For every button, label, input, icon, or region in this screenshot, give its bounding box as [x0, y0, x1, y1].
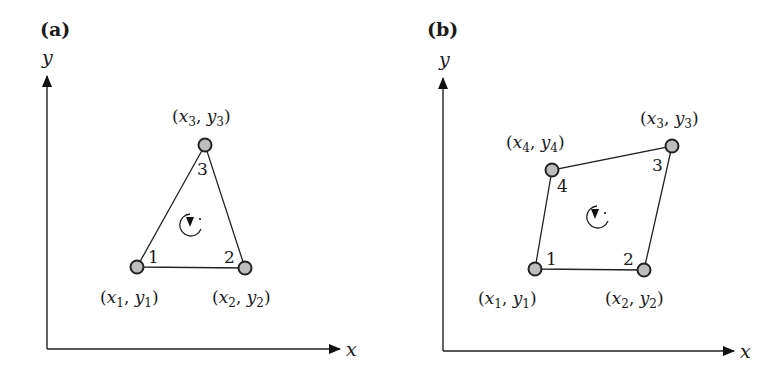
node-1-number: 1 [546, 249, 557, 269]
node-3 [666, 140, 679, 153]
node-3-number: 3 [652, 155, 663, 175]
node-4 [546, 164, 559, 177]
node-1-coord-label: (x1, y1) [478, 288, 537, 311]
node-2-coord-label: (x2, y2) [212, 287, 271, 310]
node-3-coord-label: (x3, y3) [640, 108, 699, 131]
node-2 [239, 262, 252, 275]
node-2-number: 2 [623, 249, 634, 269]
panel-b-label: (b) [427, 18, 458, 40]
node-3 [199, 139, 212, 152]
panel-a-x-axis-label: x [346, 338, 357, 360]
panel-b-y-axis-label: y [438, 48, 450, 70]
node-3-number: 3 [197, 159, 208, 179]
node-2 [638, 264, 651, 277]
panel-a: (a) y x 1 2 3 (x1, y1) (x2, y2) (x3, y3) [40, 18, 357, 360]
node-2-number: 2 [224, 247, 235, 267]
node-1 [131, 261, 144, 274]
panel-a-label: (a) [40, 18, 70, 40]
panel-b: (b) y x 1 2 3 4 (x1, y1) (x2, y2) (x3, y… [427, 18, 751, 362]
node-2-coord-label: (x2, y2) [605, 288, 664, 311]
node-1-coord-label: (x1, y1) [100, 287, 159, 310]
node-1-number: 1 [148, 247, 159, 267]
finite-element-diagram: (a) y x 1 2 3 (x1, y1) (x2, y2) (x3, y3)… [0, 0, 780, 370]
panel-b-x-axis-label: x [740, 340, 751, 362]
panel-a-y-axis-label: y [41, 46, 53, 68]
node-4-coord-label: (x4, y4) [506, 132, 565, 155]
node-1 [529, 263, 542, 276]
node-4-number: 4 [557, 176, 568, 196]
node-3-coord-label: (x3, y3) [172, 106, 231, 129]
rotation-icon [587, 206, 608, 228]
rotation-icon [180, 214, 201, 236]
